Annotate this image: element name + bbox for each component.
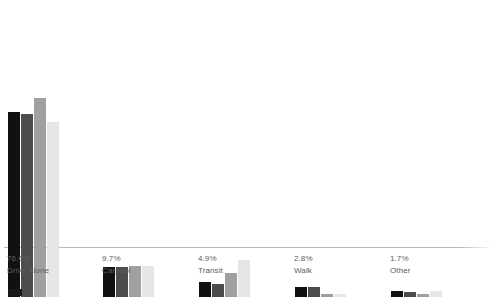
bar-series-1[interactable] bbox=[391, 291, 403, 297]
bar-series-4[interactable] bbox=[238, 260, 250, 297]
legend-swatch-series-1 bbox=[8, 289, 22, 296]
bar-series-1[interactable] bbox=[199, 282, 211, 297]
category-label: 2.8%Walk bbox=[294, 253, 313, 276]
bar-series-1[interactable] bbox=[295, 287, 307, 297]
category-name: Other bbox=[390, 265, 411, 277]
category-label: 1.7%Other bbox=[390, 253, 411, 276]
category-name: Carpool bbox=[102, 265, 131, 277]
bar-series-2[interactable] bbox=[404, 292, 416, 297]
category-label: 4.9%Transit bbox=[198, 253, 223, 276]
bar-chart: 76.6%Drive Alone9.7%Carpool4.9%Transit2.… bbox=[0, 0, 499, 297]
category-value: 76.6% bbox=[7, 253, 49, 265]
category-name: Drive Alone bbox=[7, 265, 49, 277]
category-value: 9.7% bbox=[102, 253, 131, 265]
bar-series-4[interactable] bbox=[142, 266, 154, 297]
bar-series-2[interactable] bbox=[308, 287, 320, 297]
legend bbox=[8, 289, 22, 296]
category-value: 1.7% bbox=[390, 253, 411, 265]
category-label: 9.7%Carpool bbox=[102, 253, 131, 276]
category-value: 2.8% bbox=[294, 253, 313, 265]
category-name: Transit bbox=[198, 265, 223, 277]
category-name: Walk bbox=[294, 265, 313, 277]
bar-series-4[interactable] bbox=[430, 291, 442, 297]
category-value: 4.9% bbox=[198, 253, 223, 265]
bar-series-2[interactable] bbox=[212, 284, 224, 297]
category-label: 76.6%Drive Alone bbox=[7, 253, 49, 276]
bar-series-3[interactable] bbox=[225, 273, 237, 297]
x-axis-line-fade bbox=[463, 247, 493, 248]
